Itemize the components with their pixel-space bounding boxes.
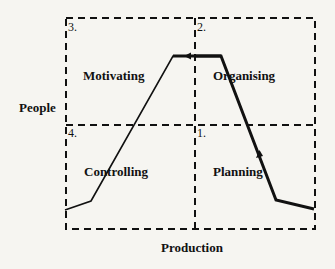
quadrant-label-controlling: Controlling xyxy=(84,165,148,178)
arrow-left-icon xyxy=(184,53,191,60)
quadrant-label-motivating: Motivating xyxy=(83,69,144,82)
x-axis-label: Production xyxy=(161,241,223,254)
y-axis-label: People xyxy=(19,101,56,114)
quadrant-number-3: 3. xyxy=(68,21,77,33)
quadrant-label-organising: Organising xyxy=(213,69,275,82)
diagram-canvas xyxy=(0,0,335,269)
quadrant-number-4: 4. xyxy=(68,127,77,139)
outer-dashed-box xyxy=(66,18,315,229)
quadrant-number-2: 2. xyxy=(197,21,206,33)
quadrant-number-1: 1. xyxy=(197,127,206,139)
quadrant-label-planning: Planning xyxy=(213,165,263,178)
